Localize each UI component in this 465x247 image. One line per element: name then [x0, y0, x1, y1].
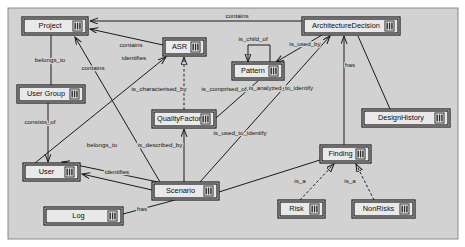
edge-label-usergroup-consistsof-user: consists_of	[25, 118, 56, 125]
class-icon-bar	[74, 23, 76, 30]
node-label-nonrisks: NonRisks	[363, 204, 395, 213]
class-node-architecturedecision[interactable]: ArchitectureDecision	[302, 17, 400, 35]
edge-label-scenario-contains-project: contains	[81, 64, 104, 71]
class-node-asr[interactable]: ASR	[163, 38, 206, 56]
class-icon-bar	[273, 68, 275, 75]
node-label-scenario: Scenario	[166, 186, 195, 195]
node-label-usergroup: User Group	[27, 89, 65, 98]
class-icon-bar	[210, 188, 212, 195]
class-icon-bar	[76, 91, 78, 98]
class-icon-bar	[71, 169, 73, 176]
edge-label-user-identifies-asr: identifies	[122, 54, 146, 61]
class-icon-bar	[275, 68, 277, 75]
class-icon-bar	[406, 206, 408, 213]
class-node-nonrisks[interactable]: NonRisks	[352, 200, 415, 218]
edge-label-nonrisks-isa-finding: is_a	[344, 177, 356, 184]
class-icon-bar	[112, 213, 114, 220]
class-icon-bar	[207, 116, 209, 123]
node-label-asr: ASR	[172, 42, 187, 51]
class-icon-bar	[197, 44, 199, 51]
class-icon-bar	[114, 213, 116, 220]
edge-label-scenario-identifies-user: identifies	[105, 168, 129, 175]
class-node-user[interactable]: User	[23, 163, 80, 181]
class-node-designhistory[interactable]: DesignHistory	[362, 109, 450, 127]
class-icon-bar	[314, 206, 316, 213]
class-icon-bar	[357, 151, 359, 158]
class-icon-bar	[360, 151, 362, 158]
node-label-designhistory: DesignHistory	[378, 113, 424, 122]
class-icon-bar	[441, 115, 443, 122]
class-icon-bar	[386, 23, 388, 30]
class-icon-bar	[311, 206, 313, 213]
edge-label-risk-isa-finding: is_a	[294, 177, 306, 184]
node-label-qualityfactor: QualityFactor	[157, 114, 201, 123]
class-icon-bar	[436, 115, 438, 122]
node-label-user: User	[39, 167, 55, 176]
class-icon-bar	[404, 206, 406, 213]
diagram-canvas: containscontainscontainscontainsbelongs_…	[0, 0, 465, 247]
class-node-log[interactable]: Log	[44, 207, 123, 225]
node-label-pattern: Pattern	[241, 66, 265, 75]
class-icon-bar	[192, 44, 194, 51]
class-icon-bar	[316, 206, 318, 213]
edge-label-scenario-isusedtoidentify-ad: is_used_to_identify	[214, 129, 268, 136]
class-icon-bar	[362, 151, 364, 158]
edge-label-asr-contains-project: contains	[119, 41, 142, 48]
class-icon-bar	[66, 169, 68, 176]
edge-label-ad-contains-project: contains	[225, 12, 248, 19]
edge-label-log-has-scenario: has	[137, 205, 147, 212]
class-icon-bar	[205, 188, 207, 195]
class-node-project[interactable]: Project	[22, 17, 88, 35]
class-icon-bar	[71, 91, 73, 98]
class-icon-bar	[202, 116, 204, 123]
edge-label-scenario-belongsto-user: belongs_to	[87, 141, 118, 148]
class-diagram: containscontainscontainscontainsbelongs_…	[0, 0, 465, 247]
class-icon-bar	[79, 23, 81, 30]
class-node-usergroup[interactable]: User Group	[17, 85, 85, 103]
class-node-risk[interactable]: Risk	[278, 200, 325, 218]
edge-label-asr-iscomprisedof: is_comprised_of	[201, 85, 246, 92]
class-node-finding[interactable]: Finding	[320, 145, 371, 163]
edge-label-ad-isanalyzedtoidentify: is_analyzed_to_identify	[249, 84, 314, 91]
class-icon-bar	[109, 213, 111, 220]
class-icon-bar	[208, 188, 210, 195]
class-icon-bar	[74, 91, 76, 98]
class-icon-bar	[270, 68, 272, 75]
class-icon-bar	[205, 116, 207, 123]
class-node-pattern[interactable]: Pattern	[232, 62, 284, 80]
edge-label-scenario-isdescribedby-qf: is_described_by	[138, 141, 184, 148]
node-label-risk: Risk	[289, 204, 304, 213]
edge-label-asr-ischaracterised-qf: is_characterised_by	[131, 85, 187, 92]
class-node-qualityfactor[interactable]: QualityFactor	[152, 110, 216, 128]
class-icon-bar	[439, 115, 441, 122]
edge-label-asr-ischildof-asr: is_child_of	[238, 35, 268, 42]
edge-label-ad-isusedby-pattern: is_used_by	[289, 40, 321, 47]
node-label-finding: Finding	[328, 149, 352, 158]
class-icon-bar	[391, 23, 393, 30]
class-icon-bar	[389, 23, 391, 30]
edge-label-ad-has-designhistory: has	[345, 61, 355, 68]
node-label-architecturedecision: ArchitectureDecision	[312, 21, 380, 30]
node-label-project: Project	[38, 21, 61, 30]
edge-label-usergroup-belongsto-project: belongs_to	[35, 56, 66, 63]
class-icon-bar	[69, 169, 71, 176]
node-label-log: Log	[72, 211, 84, 220]
class-node-scenario[interactable]: Scenario	[152, 182, 219, 200]
class-icon-bar	[77, 23, 79, 30]
class-icon-bar	[401, 206, 403, 213]
class-icon-bar	[195, 44, 197, 51]
